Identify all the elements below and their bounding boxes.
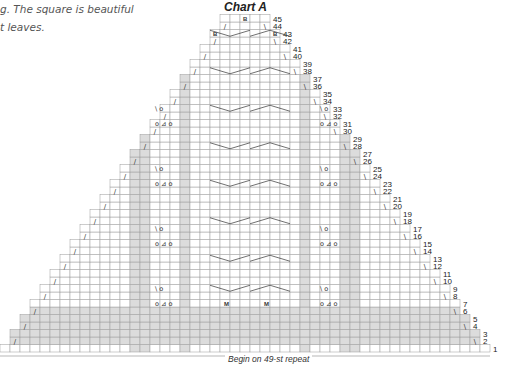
svg-text:19: 19 — [403, 210, 412, 219]
svg-text:o ⊿ o: o ⊿ o — [155, 180, 173, 188]
svg-text:17: 17 — [413, 225, 422, 234]
svg-text:35: 35 — [323, 90, 332, 99]
svg-text:\ o: \ o — [320, 225, 328, 233]
svg-text:31: 31 — [343, 120, 352, 129]
svg-text:M: M — [264, 301, 269, 307]
svg-text:41: 41 — [293, 45, 302, 54]
svg-text:1: 1 — [493, 345, 498, 354]
svg-text:B: B — [273, 31, 278, 37]
svg-text:\ o: \ o — [155, 105, 163, 113]
svg-text:\ o: \ o — [155, 225, 163, 233]
chart-footer-note: Begin on 49-st repeat — [225, 354, 312, 364]
svg-text:B: B — [243, 16, 248, 22]
svg-text:21: 21 — [393, 195, 402, 204]
svg-text:B: B — [213, 31, 218, 37]
svg-text:o ⊿ o: o ⊿ o — [320, 300, 338, 308]
svg-text:M: M — [224, 301, 229, 307]
svg-text:33: 33 — [333, 105, 342, 114]
svg-text:27: 27 — [363, 150, 372, 159]
svg-text:5: 5 — [473, 315, 478, 324]
svg-text:3: 3 — [483, 330, 488, 339]
svg-text:45: 45 — [273, 15, 282, 24]
svg-text:39: 39 — [303, 60, 312, 69]
svg-text:o ⊿ o: o ⊿ o — [155, 300, 173, 308]
svg-text:23: 23 — [383, 180, 392, 189]
svg-text:o ⊿ o: o ⊿ o — [320, 180, 338, 188]
svg-text:\ o: \ o — [320, 285, 328, 293]
knitting-chart: 1/\23/\45/\67/\89/\1011/\1213/\1415/\161… — [0, 0, 505, 365]
svg-text:o ⊿ o: o ⊿ o — [155, 120, 173, 128]
svg-text:7: 7 — [463, 300, 468, 309]
svg-text:9: 9 — [453, 285, 458, 294]
svg-text:\ o: \ o — [155, 165, 163, 173]
svg-text:\ o: \ o — [320, 105, 328, 113]
svg-text:11: 11 — [443, 270, 452, 279]
svg-text:25: 25 — [373, 165, 382, 174]
svg-text:\ o: \ o — [155, 285, 163, 293]
svg-text:o ⊿ o: o ⊿ o — [155, 240, 173, 248]
svg-text:13: 13 — [433, 255, 442, 264]
svg-text:37: 37 — [313, 75, 322, 84]
svg-text:o ⊿ o: o ⊿ o — [320, 120, 338, 128]
svg-text:43: 43 — [283, 30, 292, 39]
svg-text:29: 29 — [353, 135, 362, 144]
svg-text:o ⊿ o: o ⊿ o — [320, 240, 338, 248]
svg-text:15: 15 — [423, 240, 432, 249]
chart-title: Chart A — [224, 0, 267, 14]
svg-text:\ o: \ o — [320, 165, 328, 173]
